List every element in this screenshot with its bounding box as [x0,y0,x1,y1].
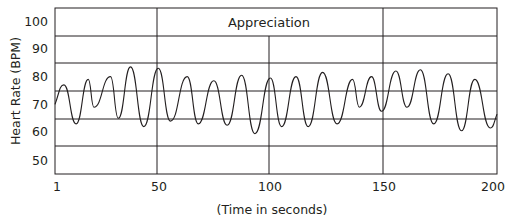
x-axis-title: (Time in seconds) [217,202,328,217]
y-axis-title: Heart Rate (BPM) [8,37,23,145]
heart-rate-chart: Appreciation 100 90 80 70 60 50 Heart Ra… [0,0,509,218]
y-axis-ticks: 100 90 80 70 60 50 [24,14,48,168]
x-tick-label: 200 [481,179,505,194]
y-tick-label: 100 [24,14,48,29]
y-tick-label: 90 [32,41,48,56]
heart-rate-line [55,67,497,134]
section-annotation: Appreciation [228,15,310,30]
x-tick-label: 100 [258,179,282,194]
horizontal-gridlines [55,36,497,146]
y-tick-label: 80 [32,69,48,84]
x-axis-ticks: 1 50 100 150 200 [53,179,505,194]
y-tick-label: 50 [32,153,48,168]
y-tick-label: 60 [32,124,48,139]
x-tick-label: 50 [151,179,167,194]
x-tick-label: 1 [53,179,61,194]
x-tick-label: 150 [372,179,396,194]
y-tick-label: 70 [32,97,48,112]
